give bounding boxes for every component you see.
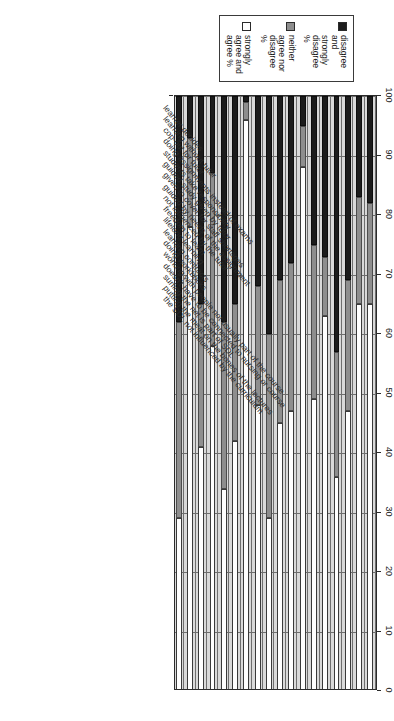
value-tick-label: 30 [384, 506, 394, 516]
value-tick-label: 60 [384, 328, 394, 338]
bar-segment [198, 447, 204, 690]
bar-segment [311, 399, 317, 690]
value-tick-mark [377, 214, 381, 215]
value-tick-label: 70 [384, 268, 394, 278]
value-tick-label: 40 [384, 447, 394, 457]
value-tick-mark [377, 274, 381, 275]
legend-swatch-icon [338, 22, 347, 31]
bar-segment [367, 203, 373, 304]
bar-segment [289, 411, 295, 690]
value-tick-mark [377, 571, 381, 572]
bar-segment [176, 518, 182, 690]
legend-swatch-icon [242, 22, 251, 31]
bar-segment [232, 441, 238, 690]
bar-segment [210, 96, 216, 173]
category-tick-mark [169, 95, 173, 96]
legend-disagree: disagree and strongly disagree % [302, 22, 348, 74]
gridline-category [307, 96, 308, 689]
bar-segment [300, 96, 306, 126]
bar-segment [289, 96, 295, 263]
category-axis: learner decideslearning without tutorcop… [3, 95, 173, 690]
value-axis: 1009080706050403020100 [377, 95, 394, 690]
value-tick-mark [377, 690, 381, 691]
bar-segment [266, 518, 272, 690]
value-tick-mark [377, 631, 381, 632]
value-tick-label: 90 [384, 149, 394, 159]
bar-segment [289, 263, 295, 412]
value-tick-label: 100 [384, 87, 394, 102]
bar-segment [277, 423, 283, 690]
bar-segment [322, 96, 328, 257]
value-tick-label: 20 [384, 566, 394, 576]
bar-segment [311, 96, 317, 245]
bar-segment [255, 405, 261, 690]
gridline-category [296, 96, 297, 689]
gridline-category [341, 96, 342, 689]
gridline-category [352, 96, 353, 689]
value-tick-label: 0 [384, 687, 394, 692]
bar-segment [266, 334, 272, 518]
bar-segment [221, 489, 227, 690]
bar-segment [345, 96, 351, 280]
gridline-category [319, 96, 320, 689]
bar-segment [176, 322, 182, 518]
legend-agree: strongly agree and agree % [225, 22, 253, 74]
bar-segment [367, 96, 373, 203]
value-tick-mark [377, 95, 381, 96]
gridline-category [217, 96, 218, 689]
bar-segment [255, 96, 261, 286]
chart-figure: disagree and strongly disagree %neither … [0, 0, 394, 721]
gridline-category [364, 96, 365, 689]
value-tick-label: 50 [384, 387, 394, 397]
legend-swatch-icon [286, 22, 295, 31]
value-tick-mark [377, 333, 381, 334]
bar-segment [277, 96, 283, 280]
bar-segment [345, 280, 351, 411]
bar-segment [356, 197, 362, 304]
bar-segment [322, 316, 328, 690]
value-tick-mark [377, 512, 381, 513]
bar-segment [311, 245, 317, 400]
bar-segment [322, 257, 328, 317]
gridline-category [228, 96, 229, 689]
bar-segment [334, 477, 340, 690]
bar-segment [334, 96, 340, 352]
bar-segment [266, 96, 272, 334]
legend-label: disagree and strongly disagree % [302, 35, 348, 68]
bar-segment [356, 96, 362, 197]
gridline-category [262, 96, 263, 689]
value-tick-mark [377, 393, 381, 394]
bar-segment [300, 167, 306, 690]
bar-segment [367, 304, 373, 690]
gridline-category [285, 96, 286, 689]
value-tick-mark [377, 155, 381, 156]
bar-segment [243, 102, 249, 120]
legend-label: strongly agree and agree % [225, 35, 253, 74]
value-tick-mark [377, 452, 381, 453]
value-tick-label: 10 [384, 625, 394, 635]
bar-segment [345, 411, 351, 690]
chart-legend: disagree and strongly disagree %neither … [219, 15, 354, 82]
gridline-category [330, 96, 331, 689]
legend-neither: neither agree nor disagree % [258, 22, 295, 74]
legend-label: neither agree nor disagree % [258, 35, 295, 72]
value-tick-label: 80 [384, 209, 394, 219]
bar-segment [356, 304, 362, 690]
bar-segment [334, 352, 340, 477]
gridline-category [375, 96, 376, 689]
bar-segment [210, 346, 216, 690]
bar-segment [300, 126, 306, 168]
